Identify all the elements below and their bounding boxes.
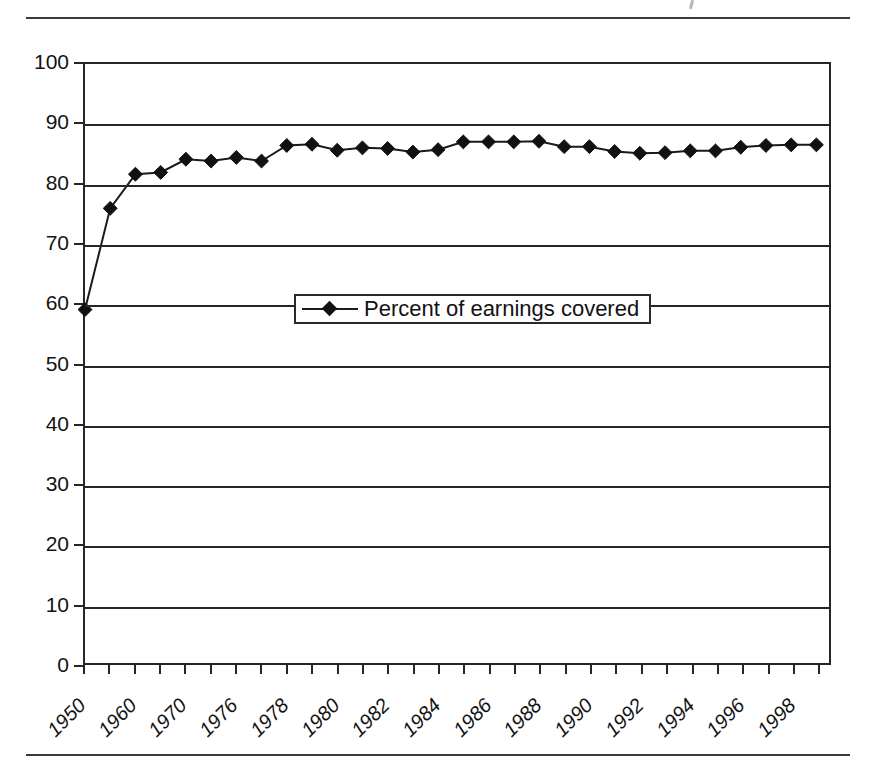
gridline <box>85 245 829 247</box>
x-tick-mark <box>615 665 617 674</box>
y-tick-mark <box>74 62 83 64</box>
x-tick-mark <box>742 665 744 674</box>
y-tick-label: 80 <box>46 172 69 193</box>
x-tick-mark <box>590 665 592 674</box>
page-canvas: 0102030405060708090100 19501960197019761… <box>0 0 874 768</box>
x-tick-label: 1976 <box>196 695 242 741</box>
x-tick-mark <box>210 665 212 674</box>
data-point-marker <box>784 138 798 152</box>
x-tick-mark <box>565 665 567 674</box>
x-tick-mark <box>692 665 694 674</box>
y-tick-label: 90 <box>46 111 69 132</box>
x-tick-mark <box>818 665 820 674</box>
x-tick-mark <box>362 665 364 674</box>
diamond-marker-icon <box>322 301 338 317</box>
x-tick-mark <box>83 665 85 674</box>
data-point-marker <box>456 135 470 149</box>
x-tick-label: 1998 <box>753 695 799 741</box>
x-tick-label: 1988 <box>500 695 546 741</box>
data-point-marker <box>709 144 723 158</box>
x-tick-mark <box>260 665 262 674</box>
y-tick-label: 0 <box>57 654 69 675</box>
data-point-marker <box>633 146 647 160</box>
y-tick-mark <box>74 665 83 667</box>
data-point-marker <box>204 154 218 168</box>
x-tick-mark <box>641 665 643 674</box>
x-tick-mark <box>438 665 440 674</box>
x-tick-mark <box>159 665 161 674</box>
x-tick-label: 1978 <box>246 695 292 741</box>
data-point-marker <box>280 139 294 153</box>
y-tick-mark <box>74 303 83 305</box>
x-tick-mark <box>489 665 491 674</box>
y-axis: 0102030405060708090100 <box>0 62 83 665</box>
y-tick-mark <box>74 424 83 426</box>
x-tick-label: 1970 <box>145 695 191 741</box>
x-tick-mark <box>184 665 186 674</box>
y-tick-label: 60 <box>46 292 69 313</box>
data-point-marker <box>482 135 496 149</box>
data-point-marker <box>608 145 622 159</box>
data-point-marker <box>128 167 142 181</box>
x-tick-mark <box>463 665 465 674</box>
x-tick-label: 1986 <box>449 695 495 741</box>
y-tick-mark <box>74 243 83 245</box>
x-tick-label: 1982 <box>348 695 394 741</box>
gridline <box>85 486 829 488</box>
y-tick-label: 20 <box>46 533 69 554</box>
x-tick-mark <box>311 665 313 674</box>
data-point-marker <box>759 139 773 153</box>
gridline <box>85 607 829 609</box>
legend-entry-label: Percent of earnings covered <box>364 298 639 320</box>
y-tick-mark <box>74 544 83 546</box>
x-tick-mark <box>235 665 237 674</box>
x-tick-label: 1984 <box>398 695 444 741</box>
y-tick-label: 30 <box>46 473 69 494</box>
x-tick-mark <box>108 665 110 674</box>
legend-swatch <box>302 301 358 317</box>
data-point-marker <box>305 137 319 151</box>
y-tick-mark <box>74 122 83 124</box>
x-tick-mark <box>387 665 389 674</box>
y-tick-label: 10 <box>46 594 69 615</box>
y-tick-mark <box>74 605 83 607</box>
data-point-marker <box>532 134 546 148</box>
x-tick-label: 1992 <box>601 695 647 741</box>
series-line <box>85 141 816 309</box>
x-tick-mark <box>793 665 795 674</box>
data-point-marker <box>229 150 243 164</box>
data-point-marker <box>103 201 117 215</box>
chart-figure: 0102030405060708090100 19501960197019761… <box>0 30 874 740</box>
gridline <box>85 124 829 126</box>
data-point-marker <box>154 165 168 179</box>
data-point-marker <box>809 138 823 152</box>
y-tick-mark <box>74 484 83 486</box>
gridline <box>85 426 829 428</box>
data-point-marker <box>683 144 697 158</box>
data-point-marker <box>507 135 521 149</box>
data-point-marker <box>406 145 420 159</box>
stray-artifact-mark <box>689 0 694 9</box>
gridline <box>85 366 829 368</box>
gridline <box>85 185 829 187</box>
data-point-marker <box>557 140 571 154</box>
y-tick-mark <box>74 364 83 366</box>
x-tick-label: 1994 <box>652 695 698 741</box>
y-tick-label: 70 <box>46 232 69 253</box>
x-axis-ticks <box>83 665 831 675</box>
x-tick-label: 1980 <box>297 695 343 741</box>
data-point-marker <box>179 152 193 166</box>
x-tick-mark <box>514 665 516 674</box>
x-tick-label: 1960 <box>94 695 140 741</box>
y-tick-mark <box>74 183 83 185</box>
y-tick-label: 50 <box>46 353 69 374</box>
data-point-marker <box>355 141 369 155</box>
x-tick-label: 1990 <box>551 695 597 741</box>
y-tick-label: 40 <box>46 413 69 434</box>
data-point-marker <box>658 146 672 160</box>
data-point-marker <box>330 143 344 157</box>
x-tick-label: 1950 <box>43 695 89 741</box>
gridline <box>85 546 829 548</box>
x-tick-mark <box>666 665 668 674</box>
x-axis-labels: 1950196019701976197819801982198419861988… <box>83 678 873 748</box>
